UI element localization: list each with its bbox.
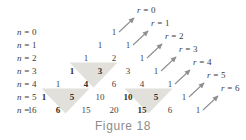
pascal-cell-n5-r2: 10 (96, 92, 105, 102)
pascal-cell-n4-r4: 1 (168, 79, 173, 89)
pascal-cell-n2-r1: 2 (112, 53, 117, 63)
pascal-cell-n6-r3: 20 (110, 105, 119, 115)
figure-18-container: n = 0 n = 1 n = 2 n = 3 n = 4 n = 5 n = … (0, 0, 246, 140)
pascal-cell-n6-r5: 6 (168, 105, 173, 115)
pascal-cell-n6-r1: 6 (56, 105, 61, 115)
pascal-cell-n6-r4: 15 (138, 105, 147, 115)
pascal-cell-n3-r3: 1 (154, 66, 159, 76)
pascal-cell-n4-r0: 1 (56, 79, 61, 89)
pascal-triangle-numbers: 1 1 1 1 2 1 1 3 3 1 1 4 6 4 1 1 5 10 10 … (0, 0, 246, 140)
pascal-cell-n4-r3: 4 (140, 79, 145, 89)
pascal-cell-n3-r2: 3 (126, 66, 131, 76)
pascal-cell-n5-r5: 1 (182, 92, 187, 102)
pascal-cell-n0-r0: 1 (112, 27, 117, 37)
pascal-cell-n3-r0: 1 (70, 66, 75, 76)
pascal-cell-n1-r1: 1 (126, 40, 131, 50)
pascal-cell-n6-r0: 1 (28, 105, 33, 115)
pascal-cell-n1-r0: 1 (98, 40, 103, 50)
pascal-cell-n6-r6: 1 (196, 105, 201, 115)
pascal-cell-n5-r3: 10 (124, 92, 133, 102)
pascal-cell-n4-r1: 4 (84, 79, 89, 89)
pascal-cell-n4-r2: 6 (112, 79, 117, 89)
pascal-cell-n5-r1: 5 (70, 92, 75, 102)
pascal-cell-n2-r2: 1 (140, 53, 145, 63)
pascal-cell-n5-r0: 1 (42, 92, 47, 102)
pascal-cell-n2-r0: 1 (84, 53, 89, 63)
pascal-cell-n6-r2: 15 (82, 105, 91, 115)
pascal-cell-n3-r1: 3 (98, 66, 103, 76)
pascal-cell-n5-r4: 5 (154, 92, 159, 102)
